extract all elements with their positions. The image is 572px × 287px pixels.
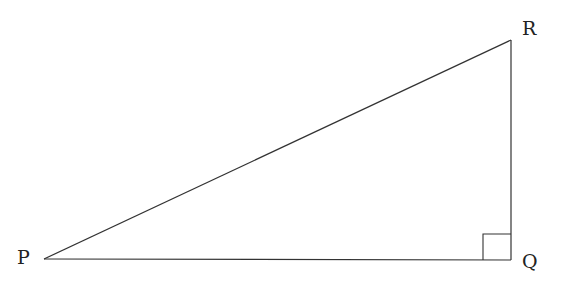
- triangle-diagram: P Q R: [0, 0, 572, 287]
- vertex-label-r: R: [522, 17, 537, 39]
- edge-pq: [44, 259, 511, 260]
- vertex-label-q: Q: [522, 250, 538, 272]
- edge-pr: [44, 40, 511, 259]
- right-angle-marker-q: [483, 234, 511, 260]
- vertex-label-p: P: [17, 246, 30, 268]
